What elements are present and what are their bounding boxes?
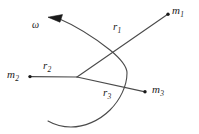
mass1-point	[166, 13, 169, 16]
mass2-point	[28, 75, 31, 78]
mass1-label: m1	[172, 5, 184, 16]
angular-velocity-diagram: ω m1 m2 m3 r1 r2 r3	[0, 0, 199, 134]
angular-velocity-label: ω	[32, 20, 39, 30]
mass3-label: m3	[152, 84, 164, 95]
radius3-label: r3	[103, 87, 111, 98]
rotation-arc	[48, 18, 127, 128]
rod-r1	[77, 15, 167, 77]
rotation-arrowhead	[48, 15, 63, 23]
mass3-point	[143, 90, 146, 93]
radius1-label: r1	[113, 21, 121, 32]
diagram-canvas	[0, 0, 199, 134]
radius2-label: r2	[43, 60, 51, 71]
mass2-label: m2	[7, 69, 19, 80]
